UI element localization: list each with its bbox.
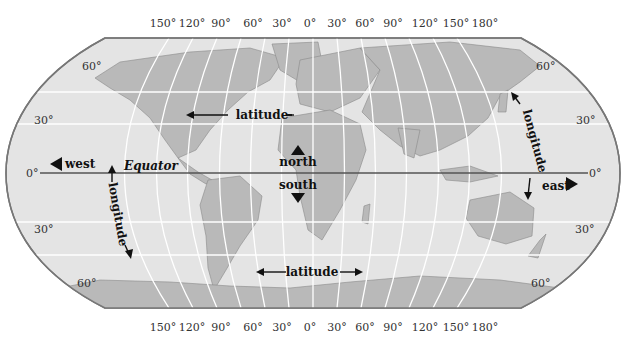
svg-text:120°: 120° xyxy=(179,17,206,30)
north-label: north xyxy=(279,155,317,169)
top-longitude-ticks: 150° 120° 90° 60° 30° 0° 30° 60° 90° 120… xyxy=(150,17,499,30)
south-label: south xyxy=(279,178,317,192)
svg-text:0°: 0° xyxy=(304,17,317,30)
svg-text:180°: 180° xyxy=(472,17,499,30)
svg-text:30°: 30° xyxy=(327,17,347,30)
equator-label: Equator xyxy=(123,159,180,173)
svg-text:30°: 30° xyxy=(327,321,347,334)
svg-text:90°: 90° xyxy=(211,321,231,334)
latitude-top-label: latitude xyxy=(236,108,289,122)
svg-text:30°: 30° xyxy=(575,223,595,236)
svg-text:0°: 0° xyxy=(589,167,602,180)
svg-text:90°: 90° xyxy=(383,17,403,30)
svg-text:60°: 60° xyxy=(531,277,551,290)
svg-text:120°: 120° xyxy=(412,17,439,30)
svg-text:150°: 150° xyxy=(150,321,177,334)
world-map-diagram: 150° 120° 90° 60° 30° 0° 30° 60° 90° 120… xyxy=(0,0,626,343)
svg-text:90°: 90° xyxy=(211,17,231,30)
svg-text:90°: 90° xyxy=(383,321,403,334)
svg-text:150°: 150° xyxy=(443,17,470,30)
svg-text:120°: 120° xyxy=(179,321,206,334)
svg-text:60°: 60° xyxy=(536,60,556,73)
svg-text:150°: 150° xyxy=(443,321,470,334)
svg-text:30°: 30° xyxy=(576,114,596,127)
svg-text:60°: 60° xyxy=(77,277,97,290)
svg-text:30°: 30° xyxy=(272,17,292,30)
svg-text:60°: 60° xyxy=(355,17,375,30)
svg-text:180°: 180° xyxy=(472,321,499,334)
west-label: west xyxy=(64,157,96,171)
svg-text:30°: 30° xyxy=(272,321,292,334)
svg-text:150°: 150° xyxy=(150,17,177,30)
svg-text:60°: 60° xyxy=(82,60,102,73)
svg-text:60°: 60° xyxy=(243,17,263,30)
svg-text:30°: 30° xyxy=(34,223,54,236)
svg-text:60°: 60° xyxy=(243,321,263,334)
svg-text:0°: 0° xyxy=(304,321,317,334)
svg-text:60°: 60° xyxy=(355,321,375,334)
svg-text:0°: 0° xyxy=(26,167,39,180)
east-label: east xyxy=(542,179,570,193)
latitude-bottom-label: latitude xyxy=(286,265,339,279)
svg-text:120°: 120° xyxy=(412,321,439,334)
svg-text:30°: 30° xyxy=(34,114,54,127)
bottom-longitude-ticks: 150° 120° 90° 60° 30° 0° 30° 60° 90° 120… xyxy=(150,321,499,334)
